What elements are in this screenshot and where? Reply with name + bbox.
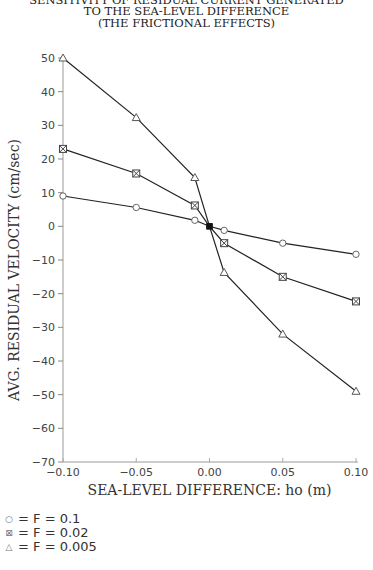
circle-marker	[221, 227, 227, 233]
circle-marker	[192, 217, 198, 223]
circle-marker	[60, 193, 66, 199]
legend: ○ = F = 0.1 ⊠ = F = 0.02 △ = F = 0.005	[4, 512, 97, 554]
y-tick-label: 50	[41, 52, 55, 65]
square-x-marker-icon: ⊠	[4, 526, 14, 540]
legend-item-f-0-02: ⊠ = F = 0.02	[4, 526, 97, 540]
y-tick-label: −30	[32, 321, 55, 334]
circle-marker	[353, 251, 359, 257]
y-tick-label: −50	[32, 389, 55, 402]
triangle-marker	[352, 387, 360, 394]
origin-marker	[207, 223, 213, 229]
y-tick-label: 10	[41, 187, 55, 200]
x-axis-title: SEA-LEVEL DIFFERENCE: ho (m)	[88, 482, 332, 498]
y-tick-label: −10	[32, 254, 55, 267]
y-tick-label: 40	[41, 86, 55, 99]
y-tick-label: −60	[32, 422, 55, 435]
circle-marker-icon: ○	[4, 512, 14, 526]
x-tick-label: −0.10	[46, 466, 80, 479]
legend-item-f-0-1: ○ = F = 0.1	[4, 512, 97, 526]
triangle-marker	[220, 268, 228, 275]
y-tick-label: 20	[41, 153, 55, 166]
x-tick-label: 0.10	[344, 466, 369, 479]
circle-marker	[133, 204, 139, 210]
y-tick-label: 30	[41, 119, 55, 132]
x-tick-label: 0.00	[197, 466, 222, 479]
circle-marker	[280, 240, 286, 246]
legend-label: = F = 0.005	[18, 540, 97, 554]
y-tick-label: −40	[32, 355, 55, 368]
triangle-marker-icon: △	[4, 540, 14, 554]
y-tick-label: −20	[32, 288, 55, 301]
x-tick-label: −0.05	[119, 466, 153, 479]
x-tick-label: 0.05	[271, 466, 296, 479]
legend-label: = F = 0.02	[18, 526, 89, 540]
y-axis-title: AVG. RESIDUAL VELOCITY (cm/sec)	[6, 139, 22, 402]
legend-label: = F = 0.1	[18, 512, 80, 526]
legend-item-f-0-005: △ = F = 0.005	[4, 540, 97, 554]
y-tick-label: 0	[48, 220, 55, 233]
line-chart: 50403020100−10−20−30−40−50−60−70−0.10−0.…	[0, 0, 373, 510]
